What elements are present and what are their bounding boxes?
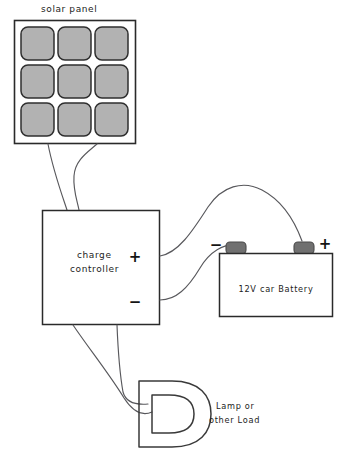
- solar-cell: [58, 27, 91, 60]
- solar-cell: [95, 103, 128, 136]
- battery-label: 12V car Battery: [239, 284, 314, 294]
- solar-cell: [95, 65, 128, 98]
- solar-panel: [15, 21, 136, 144]
- solar-cell: [95, 27, 128, 60]
- charge-controller-negative-terminal: −: [129, 293, 142, 311]
- solar-cell: [58, 65, 91, 98]
- charge-controller-label-line2: controller: [70, 264, 119, 274]
- solar-cell: [21, 27, 54, 60]
- wiring-diagram-canvas: solar panel charge controller: [0, 0, 342, 457]
- battery-negative-sign: −: [210, 236, 223, 254]
- battery-negative-post: [226, 242, 246, 254]
- charge-controller-positive-terminal: +: [129, 248, 142, 266]
- solar-panel-label: solar panel: [41, 4, 97, 14]
- solar-cell: [58, 103, 91, 136]
- diagram-svg: solar panel charge controller: [0, 0, 342, 457]
- load-label-line1: Lamp or: [216, 401, 255, 411]
- battery-positive-sign: +: [319, 235, 332, 253]
- load-label-line2: other Load: [209, 415, 260, 425]
- charge-controller: charge controller + −: [43, 211, 160, 325]
- charge-controller-label-line1: charge: [77, 250, 112, 260]
- battery-positive-post: [294, 242, 314, 254]
- solar-cell: [21, 65, 54, 98]
- solar-cell: [21, 103, 54, 136]
